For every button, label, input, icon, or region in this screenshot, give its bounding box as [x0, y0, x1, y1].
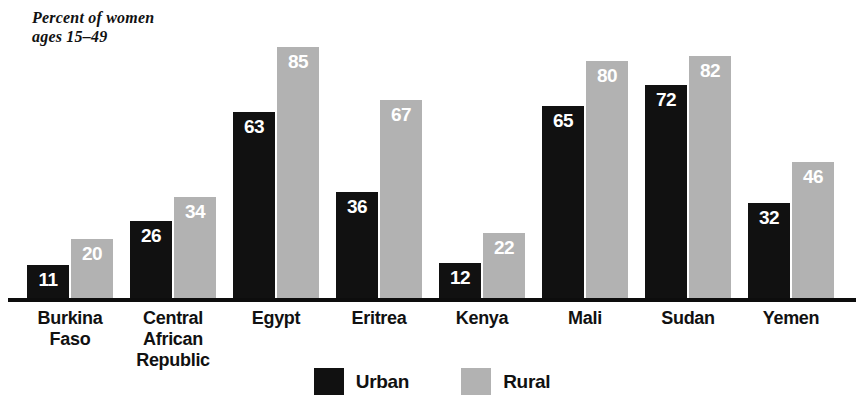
bar-value-label: 46: [792, 167, 834, 186]
legend-label-urban: Urban: [356, 372, 409, 391]
category-label-sudan: Sudan: [629, 308, 747, 329]
bar-sudan-urban: 72: [645, 85, 687, 298]
bar-value-label: 36: [336, 197, 378, 216]
bar-value-label: 82: [689, 61, 731, 80]
bar-value-label: 85: [277, 52, 319, 71]
bar-value-label: 80: [586, 66, 628, 85]
legend-label-rural: Rural: [503, 372, 550, 391]
bar-group-egypt: 6385: [233, 4, 319, 298]
bar-value-label: 72: [645, 90, 687, 109]
bar-kenya-rural: 22: [483, 233, 525, 298]
bar-value-label: 26: [130, 226, 172, 245]
bar-value-label: 20: [71, 244, 113, 263]
bar-value-label: 11: [27, 270, 69, 289]
chart-legend: UrbanRural: [0, 368, 864, 395]
bar-value-label: 22: [483, 238, 525, 257]
bar-burkina-faso-urban: 11: [27, 265, 69, 298]
bar-mali-rural: 80: [586, 61, 628, 298]
category-label-burkina-faso: Burkina Faso: [11, 308, 129, 350]
bar-chart: Percent of women ages 15–49 112026346385…: [0, 0, 864, 415]
legend-item-urban[interactable]: Urban: [314, 368, 409, 395]
bar-value-label: 34: [174, 202, 216, 221]
bar-group-burkina-faso: 1120: [27, 4, 113, 298]
bar-kenya-urban: 12: [439, 263, 481, 298]
x-axis-line: [8, 298, 856, 302]
bar-burkina-faso-rural: 20: [71, 239, 113, 298]
bar-central-african-republic-urban: 26: [130, 221, 172, 298]
category-label-egypt: Egypt: [217, 308, 335, 329]
bar-yemen-urban: 32: [748, 203, 790, 298]
bar-group-mali: 6580: [542, 4, 628, 298]
bar-value-label: 67: [380, 105, 422, 124]
category-label-yemen: Yemen: [732, 308, 850, 329]
bar-sudan-rural: 82: [689, 56, 731, 298]
bar-group-sudan: 7282: [645, 4, 731, 298]
bar-central-african-republic-rural: 34: [174, 197, 216, 298]
category-label-mali: Mali: [526, 308, 644, 329]
bar-group-central-african-republic: 2634: [130, 4, 216, 298]
category-label-eritrea: Eritrea: [320, 308, 438, 329]
legend-item-rural[interactable]: Rural: [461, 368, 550, 395]
bar-egypt-urban: 63: [233, 112, 275, 298]
bar-eritrea-rural: 67: [380, 100, 422, 298]
bar-eritrea-urban: 36: [336, 192, 378, 298]
legend-swatch-urban: [314, 368, 344, 395]
bar-value-label: 12: [439, 268, 481, 287]
bar-value-label: 65: [542, 111, 584, 130]
bar-value-label: 63: [233, 117, 275, 136]
category-label-kenya: Kenya: [423, 308, 541, 329]
bar-mali-urban: 65: [542, 106, 584, 298]
bar-value-label: 32: [748, 208, 790, 227]
category-label-central-african-republic: Central African Republic: [114, 308, 232, 371]
bar-group-yemen: 3246: [748, 4, 834, 298]
bar-egypt-rural: 85: [277, 47, 319, 298]
bar-yemen-rural: 46: [792, 162, 834, 298]
bar-group-eritrea: 3667: [336, 4, 422, 298]
legend-swatch-rural: [461, 368, 491, 395]
plot-area: 11202634638536671222658072823246: [0, 0, 864, 302]
bar-group-kenya: 1222: [439, 4, 525, 298]
